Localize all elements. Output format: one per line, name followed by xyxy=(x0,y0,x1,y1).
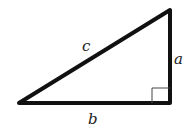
right-triangle-diagram: c a b xyxy=(0,0,183,129)
right-angle-marker xyxy=(152,88,170,103)
triangle xyxy=(19,10,170,103)
label-c: c xyxy=(82,37,91,55)
label-a: a xyxy=(174,50,183,68)
label-b: b xyxy=(88,110,98,128)
